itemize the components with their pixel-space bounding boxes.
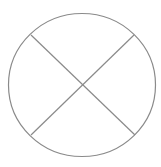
diagram-canvas (0, 0, 161, 167)
crossed-circle-icon (0, 0, 161, 167)
